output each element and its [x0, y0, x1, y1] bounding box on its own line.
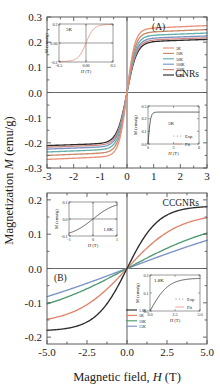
- legend-label-300K: 300K: [176, 74, 185, 78]
- ytick-label: -0.2: [25, 137, 42, 149]
- ytick-label: 0.1: [28, 61, 42, 73]
- inset-xtick-label: 2.5: [172, 312, 177, 317]
- inset-xlabel: H (T): [167, 151, 179, 156]
- xtick-label: 2: [178, 170, 184, 182]
- inset-ylabel: M (emu/g): [135, 283, 140, 303]
- xtick-label: 2.5: [160, 346, 174, 358]
- legend-label-5K: 5K: [139, 314, 144, 318]
- ytick-label: 0.2: [28, 194, 42, 206]
- xtick-label: 3: [204, 170, 210, 182]
- ytick-label: 0.0: [28, 263, 42, 275]
- inset-xtick-label: 0.00: [82, 63, 89, 68]
- ytick-label: -0.1: [25, 112, 42, 124]
- xtick-label: -2.5: [78, 346, 96, 358]
- inset-ytick-label: -0.1: [61, 234, 67, 239]
- figure-xlabel: Magnetic field, H (T): [73, 370, 181, 384]
- xtick-label: -1: [96, 170, 105, 182]
- figure-ylabel: Magnetization M (emu/g): [2, 116, 16, 244]
- ytick-label: 0.1: [28, 228, 42, 240]
- inset-legend-dot: [180, 135, 181, 136]
- legend-label-100K: 100K: [176, 63, 185, 67]
- ytick-label: 0.2: [28, 36, 42, 48]
- ytick-label: -0.1: [25, 297, 42, 309]
- legend-label-10K: 10K: [139, 320, 146, 324]
- inset-ytick-label: 0.0: [62, 217, 67, 222]
- ytick-label: -0.3: [25, 162, 43, 174]
- inset-ytick-label: 0.1: [141, 129, 146, 134]
- inset-legend-dot: [173, 135, 174, 136]
- inset-xtick-label: 0: [147, 145, 149, 150]
- xtick-label: 0.0: [120, 346, 134, 358]
- ytick-label: -0.2: [25, 331, 42, 343]
- inset-xlabel: H (T): [87, 243, 99, 248]
- inset-A-inset-lowfield: -0.50.000.50.20.00-0.2H (T)M (emu/g)5K: [44, 22, 116, 74]
- xtick-label: -5.0: [38, 346, 56, 358]
- inset-legend-label-Exp: Exp: [185, 134, 193, 139]
- ytick-label: 0.3: [28, 11, 42, 23]
- inset-xtick-label: 1: [116, 237, 118, 242]
- legend-label-15K: 15K: [139, 325, 146, 329]
- panel-label: (B): [54, 273, 67, 284]
- xtick-label: 1: [151, 170, 157, 182]
- inset-xlabel: H (T): [80, 69, 92, 74]
- legend-GNRs: 5K10K50K100K200K300K: [163, 47, 185, 78]
- inset-temperature-label: 1.8K: [154, 278, 164, 283]
- inset-ytick-label: 0.2: [143, 273, 148, 278]
- inset-legend-label-Exp: Exp: [187, 297, 195, 302]
- inset-ytick-label: -0.2: [51, 60, 57, 65]
- legend-label-50K: 50K: [176, 58, 183, 62]
- inset-legend-dot: [182, 298, 183, 299]
- legend-label-5K: 5K: [176, 47, 181, 51]
- inset-legend-dot: [177, 135, 178, 136]
- inset-temperature-label: 5K: [66, 27, 73, 32]
- inset-ytick-label: 0.0: [143, 309, 148, 314]
- inset-xtick-label: 0.5: [110, 63, 115, 68]
- inset-legend-label-Fit: Fit: [185, 142, 191, 147]
- legend-label-10K: 10K: [176, 52, 183, 56]
- inset-ylabel: M (emu/g): [54, 209, 59, 229]
- figure-magnetization-hysteresis: -3-2-101230.30.20.10.0-0.1-0.2-0.3(A)GNR…: [0, 0, 220, 388]
- inset-A-inset-fit: 0360.30.20.10.0H (T)M (emu/g)5KExpFit: [133, 104, 200, 156]
- inset-ytick-label: 0.1: [143, 291, 148, 296]
- inset-xtick-label: 0: [92, 237, 94, 242]
- inset-ylabel: M (emu/g): [44, 33, 49, 53]
- inset-legend-dot: [175, 298, 176, 299]
- xtick-label: -2: [69, 170, 78, 182]
- inset-ytick-label: 0.3: [141, 104, 146, 109]
- ytick-label: 0.0: [28, 87, 42, 99]
- xtick-label: -3: [42, 170, 52, 182]
- sample-label: CCGNRs: [163, 198, 200, 208]
- inset-temperature-label: 1.8K: [103, 227, 113, 232]
- inset-B-inset-lowfield: -1010.10.0-0.1H (T)M (emu/g)1.8K: [54, 200, 118, 248]
- inset-xtick-label: -1: [67, 237, 70, 242]
- inset-ytick-label: 0.00: [50, 41, 57, 46]
- xtick-label: 5.0: [200, 346, 214, 358]
- inset-ylabel: M (emu/g): [133, 115, 138, 135]
- legend-label-200K: 200K: [176, 68, 185, 72]
- panel-A: -3-2-101230.30.20.10.0-0.1-0.2-0.3(A)GNR…: [25, 11, 211, 182]
- inset-xtick-label: 6: [198, 145, 200, 150]
- inset-ytick-label: 0.0: [141, 142, 146, 147]
- inset-xlabel: H (T): [169, 318, 181, 323]
- inset-legend-label-Fit: Fit: [187, 305, 193, 310]
- xtick-label: 0: [124, 170, 130, 182]
- inset-temperature-label: 5K: [168, 121, 175, 126]
- inset-ytick-label: 0.2: [52, 22, 57, 27]
- inset-xtick-label: 3: [172, 145, 174, 150]
- inset-ytick-label: 0.2: [141, 116, 146, 121]
- figure-canvas: -3-2-101230.30.20.10.0-0.1-0.2-0.3(A)GNR…: [0, 0, 220, 388]
- inset-ytick-label: 0.1: [62, 200, 67, 205]
- inset-xtick-label: 5.0: [197, 312, 202, 317]
- inset-legend-dot: [179, 298, 180, 299]
- inset-B-inset-fit: 0.02.55.00.20.10.0H (T)M (emu/g)1.8KExpF…: [135, 273, 203, 323]
- panel-label: (A): [152, 22, 165, 33]
